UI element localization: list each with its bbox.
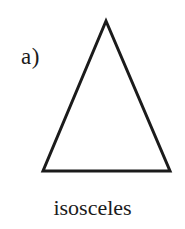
isosceles-triangle-icon bbox=[43, 21, 170, 171]
figure-container: a) isosceles bbox=[0, 0, 185, 229]
part-label: a) bbox=[21, 45, 40, 68]
figure-caption: isosceles bbox=[0, 196, 185, 219]
